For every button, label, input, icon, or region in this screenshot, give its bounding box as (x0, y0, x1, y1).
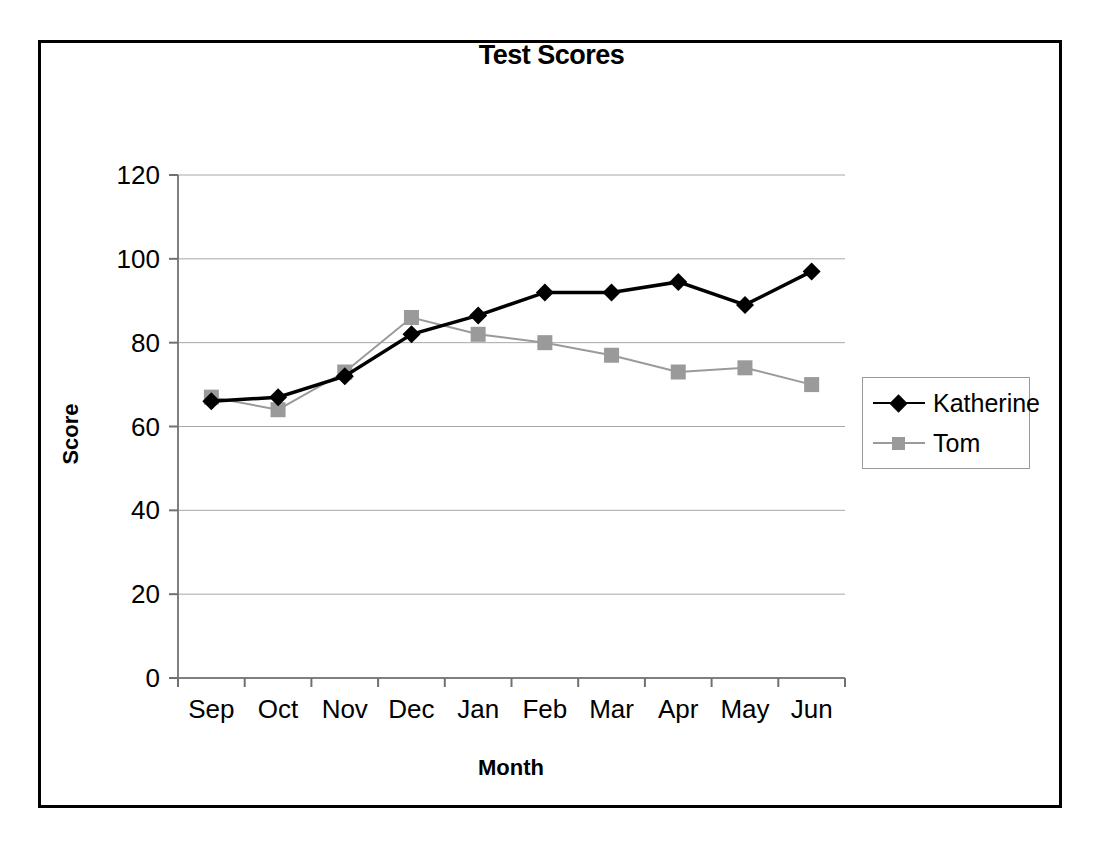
y-tick-label: 120 (117, 160, 160, 190)
legend-swatch-katherine (873, 393, 925, 413)
series-katherine (202, 262, 820, 410)
y-tick-label: 40 (131, 495, 160, 525)
data-series-layer (202, 262, 820, 417)
data-point-marker (604, 348, 619, 363)
data-point-marker (469, 306, 487, 324)
chart-legend: Katherine Tom (862, 377, 1030, 469)
legend-swatch-tom (873, 433, 925, 453)
data-point-marker (537, 335, 552, 350)
x-tick-label: Mar (589, 694, 634, 724)
y-tick-label: 0 (146, 663, 160, 693)
legend-label-katherine: Katherine (933, 389, 1040, 418)
data-point-marker (671, 365, 686, 380)
y-tick-label-group: 020406080100120 (117, 160, 160, 693)
y-tick-label: 60 (131, 412, 160, 442)
data-point-marker (803, 262, 821, 280)
diamond-marker-icon (889, 394, 907, 412)
legend-label-tom: Tom (933, 429, 980, 458)
series-line (211, 271, 811, 401)
legend-item-katherine[interactable]: Katherine (873, 390, 1029, 416)
x-tick-label: Jan (457, 694, 499, 724)
x-tick-group (178, 678, 845, 687)
series-tom (204, 310, 819, 417)
x-tick-label: Dec (388, 694, 434, 724)
y-tick-label: 20 (131, 579, 160, 609)
y-tick-group (169, 175, 178, 678)
y-axis-title: Score (58, 403, 83, 464)
x-tick-label: Sep (188, 694, 234, 724)
x-tick-label-group: SepOctNovDecJanFebMarAprMayJun (188, 694, 832, 724)
data-point-marker (471, 327, 486, 342)
gridlines-group (178, 175, 845, 594)
x-tick-label: Nov (322, 694, 368, 724)
x-tick-label: Apr (658, 694, 699, 724)
data-point-marker (737, 360, 752, 375)
data-point-marker (404, 310, 419, 325)
data-point-marker (669, 273, 687, 291)
x-axis-title: Month (478, 755, 544, 780)
data-point-marker (403, 325, 421, 343)
legend-item-tom[interactable]: Tom (873, 430, 1029, 456)
x-tick-label: Feb (522, 694, 567, 724)
y-tick-label: 80 (131, 328, 160, 358)
data-point-marker (603, 283, 621, 301)
x-tick-label: Oct (258, 694, 299, 724)
x-tick-label: Jun (791, 694, 833, 724)
square-marker-icon (892, 437, 905, 450)
y-tick-label: 100 (117, 244, 160, 274)
x-tick-label: May (720, 694, 769, 724)
data-point-marker (536, 283, 554, 301)
series-line (211, 318, 811, 410)
data-point-marker (804, 377, 819, 392)
data-point-marker (736, 296, 754, 314)
